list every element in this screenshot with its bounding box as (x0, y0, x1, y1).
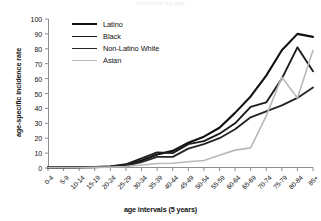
y-tick-label: 0 (38, 165, 42, 172)
y-tick-label: 30 (34, 120, 42, 127)
y-axis-tick-labels: 0102030405060708090100 (0, 0, 46, 168)
legend-label: Latino (103, 20, 123, 29)
y-tick-label: 80 (34, 45, 42, 52)
legend-swatch-icon (72, 23, 97, 25)
chart-legend: LatinoBlackNon-Latino WhiteAsian (72, 18, 202, 66)
legend-label: Asian (103, 56, 121, 65)
legend-label: Non-Latino White (103, 44, 159, 53)
y-tick-label: 50 (34, 90, 42, 97)
legend-swatch-icon (72, 36, 97, 37)
legend-label: Black (103, 32, 121, 41)
x-axis-tick-labels: 0-45-910-1415-1920-2425-2930-3435-3940-4… (0, 173, 321, 213)
cropped-chart-title: incidence by age (0, 0, 321, 7)
legend-swatch-icon (72, 60, 97, 61)
legend-item-asian[interactable]: Asian (72, 54, 202, 66)
y-tick-label: 20 (34, 135, 42, 142)
legend-item-non-latino-white[interactable]: Non-Latino White (72, 42, 202, 54)
y-tick-label: 70 (34, 60, 42, 67)
y-tick-label: 60 (34, 75, 42, 82)
legend-item-black[interactable]: Black (72, 30, 202, 42)
y-tick-label: 90 (34, 30, 42, 37)
y-tick-label: 10 (34, 150, 42, 157)
legend-swatch-icon (72, 48, 97, 49)
y-tick-label: 100 (31, 16, 42, 23)
legend-item-latino[interactable]: Latino (72, 18, 202, 30)
chart-figure: incidence by age age-specific incidence … (0, 0, 321, 221)
y-tick-label: 40 (34, 105, 42, 112)
